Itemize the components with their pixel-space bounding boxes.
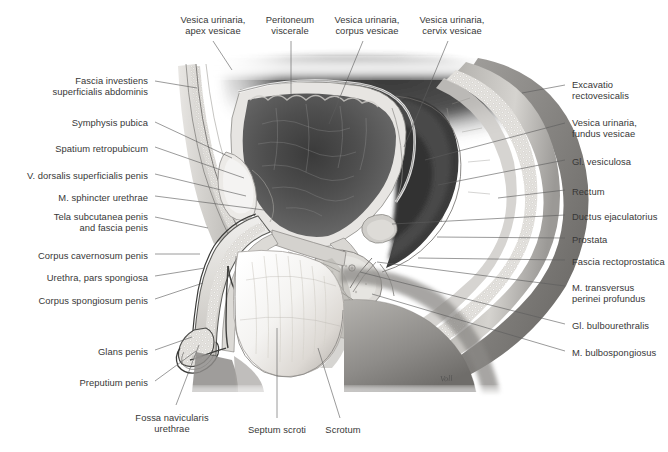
label-preputium-penis: Preputium penis (80, 377, 149, 388)
label-excavatio-rectovesicalis: Excavatio rectovesicalis (572, 79, 629, 102)
leader-tela-subcutanea (155, 217, 208, 228)
label-v-dorsalis: V. dorsalis superficialis penis (27, 170, 148, 181)
label-tela-subcutanea: Tela subcutanea penis and fascia penis (54, 211, 148, 234)
label-rectum: Rectum (572, 186, 605, 197)
anatomy-plate: Vesica urinaria, apex vesicaePeritoneum … (0, 0, 668, 452)
label-symphysis-pubica: Symphysis pubica (72, 117, 148, 128)
label-corpus-cavernosum: Corpus cavernosum penis (38, 250, 148, 261)
label-glans-penis: Glans penis (98, 346, 148, 357)
label-vesica-fundus: Vesica urinaria, fundus vesicae (572, 117, 637, 140)
label-fascia-rectoprostatica: Fascia rectoprostatica (572, 256, 665, 267)
label-corpus-spongiosum: Corpus spongiosum penis (38, 295, 148, 306)
label-prostata: Prostata (572, 234, 607, 245)
artist-signature: Voll (440, 374, 453, 384)
label-m-sphincter: M. sphincter urethrae (58, 192, 148, 203)
leader-urethra-spongiosa (155, 268, 205, 276)
label-urethra-spongiosa: Urethra, pars spongiosa (47, 272, 148, 283)
label-ductus-ejaculatorius: Ductus ejaculatorius (572, 211, 657, 222)
label-gl-vesiculosa: Gl. vesiculosa (572, 156, 631, 167)
leader-corpus-spongiosum (155, 283, 203, 299)
label-vesica-cervix: Vesica urinaria, cervix vesicae (362, 14, 542, 37)
label-fascia-investiens: Fascia investiens superficialis abdomini… (53, 75, 148, 98)
label-m-bulbospongiosus: M. bulbospongiosus (572, 347, 656, 358)
label-gl-bulbourethralis: Gl. bulbourethralis (572, 320, 649, 331)
label-m-transversus: M. transversus perinei profundus (572, 282, 645, 305)
label-scrotum: Scrotum (253, 424, 433, 435)
label-spatium-retro: Spatium retropubicum (55, 143, 148, 154)
